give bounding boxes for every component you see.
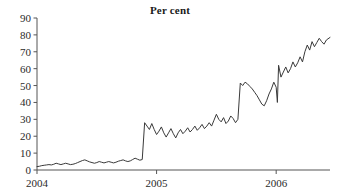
chart-container: Per cent 0102030405060708090 20042005200… <box>0 0 340 195</box>
y-tick-label: 50 <box>20 80 32 92</box>
x-tick-label: 2006 <box>265 177 288 189</box>
y-tick-label: 40 <box>20 96 32 108</box>
y-tick-label: 70 <box>20 46 32 58</box>
x-axis: 200420052006 <box>26 170 330 189</box>
line-chart-plot: 0102030405060708090 200420052006 <box>0 0 340 195</box>
y-axis: 0102030405060708090 <box>20 12 37 176</box>
y-tick-label: 10 <box>20 147 32 159</box>
y-tick-label: 20 <box>20 130 32 142</box>
y-tick-label: 0 <box>26 164 32 176</box>
series-line <box>37 37 330 166</box>
y-tick-label: 30 <box>20 113 32 125</box>
y-tick-label: 60 <box>20 63 32 75</box>
x-tick-label: 2005 <box>146 177 169 189</box>
y-tick-label: 90 <box>20 12 32 24</box>
data-series-group <box>37 37 330 166</box>
y-tick-label: 80 <box>20 29 32 41</box>
x-tick-label: 2004 <box>26 177 49 189</box>
